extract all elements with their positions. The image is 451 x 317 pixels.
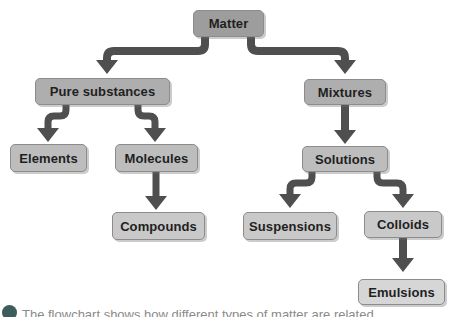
edge-pure-substances-molecules: [138, 103, 166, 142]
figure-caption: The flowchart shows how different types …: [0, 305, 451, 317]
node-mixtures: Mixtures: [304, 79, 386, 105]
node-molecules-label: Molecules: [125, 151, 189, 166]
node-colloids: Colloids: [364, 211, 442, 238]
node-compounds: Compounds: [112, 212, 205, 240]
node-solutions-label: Solutions: [315, 152, 375, 167]
edge-matter-pure-substances: [96, 35, 205, 74]
node-emulsions-label: Emulsions: [368, 285, 435, 300]
edge-solutions-suspensions: [279, 171, 312, 208]
node-compounds-label: Compounds: [120, 219, 197, 234]
node-molecules: Molecules: [115, 144, 198, 172]
matter-classification-figure: Matter Pure substances Mixtures Elements…: [0, 0, 451, 317]
node-matter: Matter: [193, 10, 264, 37]
node-elements-label: Elements: [19, 151, 78, 166]
node-colloids-label: Colloids: [377, 217, 429, 232]
edge-pure-substances-elements: [37, 103, 66, 142]
node-pure-substances: Pure substances: [35, 78, 170, 105]
caption-text: The flowchart shows how different types …: [22, 307, 377, 317]
node-suspensions: Suspensions: [243, 212, 337, 240]
node-solutions: Solutions: [302, 146, 388, 172]
caption-bullet-icon: [2, 305, 17, 317]
node-emulsions: Emulsions: [358, 279, 445, 305]
edge-colloids-emulsions: [392, 237, 414, 272]
node-pure-substances-label: Pure substances: [50, 84, 156, 99]
node-mixtures-label: Mixtures: [318, 85, 372, 100]
edge-solutions-colloids: [377, 171, 414, 208]
edge-mixtures-solutions: [334, 104, 356, 144]
edge-molecules-compounds: [145, 171, 167, 210]
node-matter-label: Matter: [209, 16, 249, 31]
node-elements: Elements: [10, 144, 87, 172]
node-suspensions-label: Suspensions: [249, 219, 331, 234]
edge-matter-mixtures: [251, 35, 356, 74]
